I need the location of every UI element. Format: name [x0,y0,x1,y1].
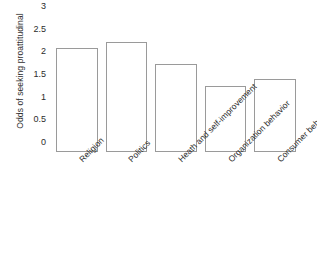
bar [106,42,148,152]
y-axis-title: Odds of seeking proattitudinal [15,0,25,146]
bar-chart: Odds of seeking proattitudinal 00.511.52… [0,0,317,268]
y-tick-label: 0.5 [33,114,46,124]
y-tick-label: 2 [41,46,46,56]
bar [155,64,197,152]
y-tick-label: 0 [41,137,46,147]
y-tick-label: 2.5 [33,24,46,34]
y-tick-label: 1.5 [33,69,46,79]
plot-area: 00.511.522.53 ReligionPoliticsHeath and … [52,16,300,152]
y-tick-label: 3 [41,1,46,11]
bar [56,48,98,152]
y-tick-label: 1 [41,92,46,102]
